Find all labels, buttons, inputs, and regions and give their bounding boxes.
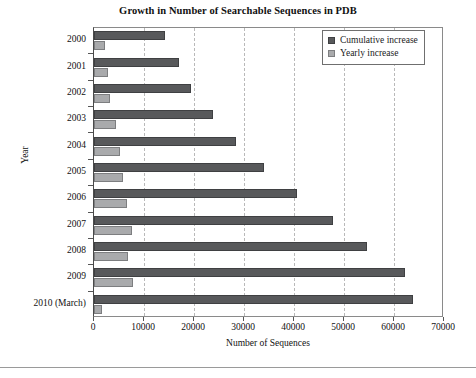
- bar-yearly: [94, 68, 108, 77]
- y-axis-tick: [88, 264, 93, 265]
- bar-yearly: [94, 120, 116, 129]
- y-axis-tick-label: 2002: [0, 87, 86, 97]
- bar-yearly: [94, 226, 132, 235]
- bar-cumulative: [94, 58, 179, 67]
- bar-yearly: [94, 94, 110, 103]
- bar-group: [94, 84, 442, 104]
- bar-group: [94, 216, 442, 236]
- y-axis-tick-label: 2009: [0, 271, 86, 281]
- y-axis-tick-label: 2006: [0, 192, 86, 202]
- legend-item-cumulative: Cumulative increase: [328, 34, 418, 47]
- legend-label-yearly: Yearly increase: [340, 47, 398, 60]
- bar-cumulative: [94, 163, 264, 172]
- x-axis-title: Number of Sequences: [93, 338, 443, 348]
- bar-cumulative: [94, 295, 413, 304]
- bar-group: [94, 295, 442, 315]
- legend-swatch-yearly: [328, 50, 335, 57]
- x-axis-tick: [243, 317, 244, 321]
- bar-cumulative: [94, 31, 165, 40]
- bar-yearly: [94, 305, 102, 314]
- bar-yearly: [94, 252, 128, 261]
- bar-cumulative: [94, 242, 367, 251]
- x-axis-tick: [443, 317, 444, 321]
- bar-cumulative: [94, 137, 236, 146]
- y-axis-tick: [88, 159, 93, 160]
- y-axis-tick: [88, 212, 93, 213]
- y-axis-tick: [88, 291, 93, 292]
- y-axis-tick: [88, 132, 93, 133]
- x-axis-tick: [143, 317, 144, 321]
- bar-chart: Growth in Number of Searchable Sequences…: [0, 0, 476, 378]
- x-axis-tick: [93, 317, 94, 321]
- bar-group: [94, 163, 442, 183]
- bar-yearly: [94, 278, 133, 287]
- x-axis-tick: [193, 317, 194, 321]
- y-axis-tick-label: 2005: [0, 166, 86, 176]
- bar-yearly: [94, 147, 120, 156]
- x-axis-tick: [293, 317, 294, 321]
- bar-cumulative: [94, 216, 333, 225]
- figure-bottom-rule: [0, 367, 476, 368]
- y-axis-tick: [88, 185, 93, 186]
- bar-group: [94, 110, 442, 130]
- chart-legend: Cumulative increase Yearly increase: [322, 30, 425, 65]
- bar-cumulative: [94, 268, 405, 277]
- bar-yearly: [94, 173, 123, 182]
- bar-group: [94, 268, 442, 288]
- bar-yearly: [94, 41, 105, 50]
- x-axis-tick: [393, 317, 394, 321]
- bar-group: [94, 189, 442, 209]
- y-axis-tick: [88, 106, 93, 107]
- y-axis-tick: [88, 53, 93, 54]
- y-axis-tick: [88, 80, 93, 81]
- x-axis-tick-label: 70000: [413, 322, 473, 332]
- bar-group: [94, 242, 442, 262]
- y-axis-tick-label: 2007: [0, 219, 86, 229]
- y-axis-tick-label: 2010 (March): [0, 298, 86, 308]
- x-axis-tick: [343, 317, 344, 321]
- y-axis-tick: [88, 238, 93, 239]
- y-axis-tick-label: 2003: [0, 113, 86, 123]
- bar-cumulative: [94, 84, 191, 93]
- bar-cumulative: [94, 189, 297, 198]
- chart-title: Growth in Number of Searchable Sequences…: [0, 5, 476, 16]
- legend-swatch-cumulative: [328, 37, 335, 44]
- legend-label-cumulative: Cumulative increase: [340, 34, 418, 47]
- y-axis-tick-label: 2000: [0, 34, 86, 44]
- legend-item-yearly: Yearly increase: [328, 47, 418, 60]
- y-axis-tick-label: 2004: [0, 140, 86, 150]
- plot-area: [93, 27, 443, 317]
- bar-cumulative: [94, 110, 213, 119]
- y-axis-tick-label: 2001: [0, 61, 86, 71]
- y-axis-tick-label: 2008: [0, 245, 86, 255]
- y-axis-title: Year: [20, 125, 30, 185]
- bar-group: [94, 137, 442, 157]
- bar-yearly: [94, 199, 127, 208]
